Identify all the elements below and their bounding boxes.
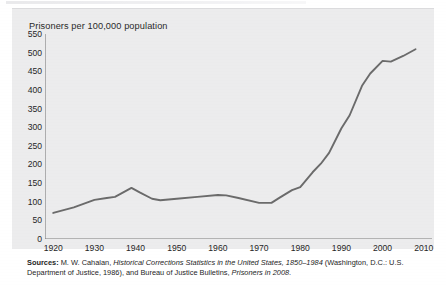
axes-group: [45, 34, 432, 239]
y-tick-250: 250: [28, 141, 42, 151]
figure-container: Prisoners per 100,000 population 0501001…: [0, 0, 446, 285]
x-tick-1990: 1990: [332, 243, 351, 253]
x-tick-1930: 1930: [85, 243, 104, 253]
sources-note: Sources: M. W. Cahalan, Historical Corre…: [27, 258, 433, 279]
line-chart-svg: [45, 34, 432, 239]
x-tick-1980: 1980: [291, 243, 310, 253]
y-tick-300: 300: [28, 122, 42, 132]
y-tick-450: 450: [28, 66, 42, 76]
sources-label: Sources:: [27, 258, 59, 267]
y-tick-500: 500: [28, 48, 42, 58]
plot-area: [45, 34, 432, 239]
cropped-top-rule-ink: [6, 1, 306, 4]
sources-line2-b: .: [289, 268, 291, 277]
y-tick-200: 200: [28, 159, 42, 169]
x-axis-tick-labels: 1920193019401950196019701980199020002010: [0, 243, 446, 257]
sources-line2-a: Department of Justice, 1986), and Bureau…: [27, 268, 232, 277]
x-tick-1950: 1950: [167, 243, 186, 253]
y-tick-350: 350: [28, 104, 42, 114]
x-tick-1940: 1940: [126, 243, 145, 253]
sources-line1-b: (Washington, D.C.: U.S.: [323, 258, 404, 267]
y-tick-400: 400: [28, 85, 42, 95]
x-tick-1920: 1920: [44, 243, 63, 253]
series-line-0: [53, 49, 415, 213]
x-tick-2000: 2000: [373, 243, 392, 253]
data-series-group: [53, 49, 415, 213]
y-tick-100: 100: [28, 197, 42, 207]
y-tick-550: 550: [28, 29, 42, 39]
cropped-top-rule: [0, 0, 446, 6]
y-tick-50: 50: [32, 215, 42, 225]
x-tick-2010: 2010: [414, 243, 433, 253]
x-tick-1960: 1960: [208, 243, 227, 253]
sources-line1-a: M. W. Cahalan,: [59, 258, 114, 267]
sources-line1-title: Historical Corrections Statistics in the…: [113, 258, 323, 267]
x-tick-1970: 1970: [250, 243, 269, 253]
chart-title: Prisoners per 100,000 population: [29, 21, 168, 31]
y-tick-150: 150: [28, 178, 42, 188]
sources-line2-title: Prisoners in 2008: [232, 268, 290, 277]
